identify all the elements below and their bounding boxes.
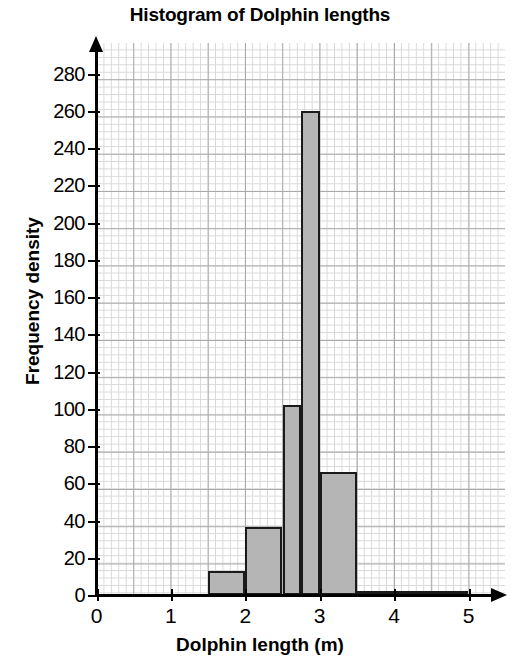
- y-axis-tick-label: 0: [11, 584, 85, 607]
- x-axis-tick-label: 5: [449, 604, 489, 628]
- histogram-bar: [208, 571, 245, 595]
- y-axis-arrow-icon: [89, 36, 103, 52]
- y-axis-tick: [88, 260, 100, 262]
- x-axis-title: Dolphin length (m): [0, 634, 520, 656]
- x-axis-tick-label: 1: [151, 604, 191, 628]
- y-axis-tick-label: 40: [11, 510, 85, 533]
- y-axis-tick: [88, 334, 100, 336]
- y-axis-title: Frequency density: [22, 151, 44, 451]
- y-axis-tick-label: 20: [11, 547, 85, 570]
- y-axis-tick: [88, 74, 100, 76]
- x-axis-tick-label: 3: [300, 604, 340, 628]
- y-axis-tick: [88, 483, 100, 485]
- x-axis-arrow-icon: [491, 588, 507, 602]
- x-axis-tick-label: 2: [225, 604, 265, 628]
- y-axis-tick: [88, 148, 100, 150]
- y-axis-tick: [88, 521, 100, 523]
- histogram-bar: [320, 472, 357, 595]
- y-axis-tick: [88, 372, 100, 374]
- x-axis-tick-label: 0: [77, 604, 117, 628]
- y-axis-tick: [88, 297, 100, 299]
- y-axis-tick-label: 280: [11, 63, 85, 86]
- y-axis-tick-label: 260: [11, 100, 85, 123]
- y-axis-tick: [88, 558, 100, 560]
- y-axis-tick-label: 60: [11, 472, 85, 495]
- histogram-bar: [301, 111, 320, 595]
- histogram-bar: [283, 405, 302, 595]
- x-axis-line: [95, 594, 493, 597]
- y-axis-tick: [88, 409, 100, 411]
- histogram-chart: Histogram of Dolphin lengths 02040608010…: [0, 0, 520, 665]
- y-axis-tick: [88, 111, 100, 113]
- y-axis-tick: [88, 223, 100, 225]
- histogram-bar: [245, 527, 282, 595]
- y-axis-tick: [88, 185, 100, 187]
- y-axis-tick: [88, 446, 100, 448]
- y-axis-line: [95, 49, 98, 596]
- x-axis-tick-label: 4: [374, 604, 414, 628]
